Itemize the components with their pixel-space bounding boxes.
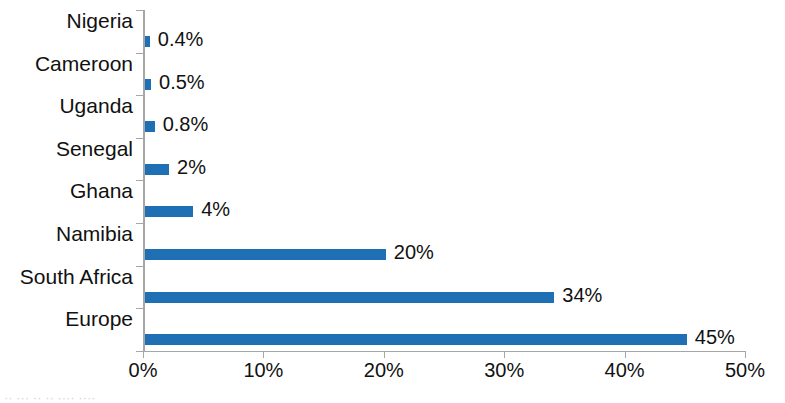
category-label: Uganda [59,95,133,116]
category-label: Ghana [70,180,133,201]
bar[interactable] [145,334,687,345]
bar-row: Cameroon0.5% [0,53,785,95]
x-tick-label: 20% [364,360,404,380]
bar-value-label: 0.8% [163,114,209,134]
bar-value-label: 4% [201,199,230,219]
caption-fragment: ·· ··· ·· ·· ···· ···· [4,391,244,403]
category-label: Namibia [56,223,133,244]
bar[interactable] [145,79,151,90]
bar-value-label: 45% [695,327,735,347]
bar[interactable] [145,292,554,303]
x-tick-label: 40% [605,360,645,380]
bar[interactable] [145,249,386,260]
x-tick [263,352,264,358]
y-tick [136,351,143,352]
category-label: Cameroon [35,53,133,74]
bar[interactable] [145,206,193,217]
x-tick-label: 50% [725,360,765,380]
bar-value-label: 0.4% [158,29,204,49]
bar-row: Europe45% [0,308,785,350]
x-axis-line [143,351,746,352]
category-label: Senegal [56,138,133,159]
x-tick-label: 30% [484,360,524,380]
bar-row: Nigeria0.4% [0,10,785,52]
category-label: Nigeria [66,10,133,31]
bar-row: Senegal2% [0,138,785,180]
bar-value-label: 34% [562,285,602,305]
x-tick [384,352,385,358]
x-tick [504,352,505,358]
bar-chart: Nigeria0.4%Cameroon0.5%Uganda0.8%Senegal… [0,0,785,403]
bar-value-label: 0.5% [159,72,205,92]
x-tick-label: 10% [243,360,283,380]
bar-row: Uganda0.8% [0,95,785,137]
category-label: Europe [65,308,133,329]
x-tick [143,352,144,358]
bar-row: Ghana4% [0,180,785,222]
x-tick [745,352,746,358]
bar[interactable] [145,121,155,132]
bar[interactable] [145,36,150,47]
bar[interactable] [145,164,169,175]
x-tick [625,352,626,358]
category-label: South Africa [20,266,133,287]
bar-value-label: 20% [394,242,434,262]
bar-value-label: 2% [177,157,206,177]
x-tick-label: 0% [129,360,158,380]
bar-row: Namibia20% [0,223,785,265]
bar-row: South Africa34% [0,266,785,308]
